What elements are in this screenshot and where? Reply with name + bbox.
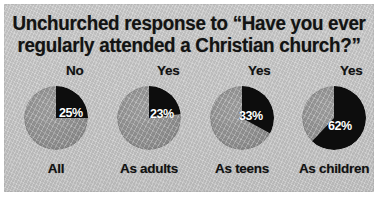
pie-chart-group-as-teens: Yes 33% As teens — [196, 64, 288, 188]
answer-label-as-children: Yes — [340, 64, 363, 78]
answer-label-as-adults: Yes — [157, 64, 180, 78]
chart-title-line-2: regularly attended a Christian church?” — [10, 34, 367, 56]
pie-value-label-all: 25% — [59, 107, 83, 120]
answer-label-as-teens: Yes — [248, 64, 271, 78]
category-label-as-children: As children — [288, 162, 380, 176]
chart-title: Unchurched response to “Have you ever re… — [4, 12, 374, 56]
pie-chart-group-all: No 25% All — [10, 64, 102, 188]
pie-as-children: 62% — [302, 86, 366, 150]
pie-all: 25% — [24, 86, 88, 150]
category-label-all: All — [10, 162, 102, 176]
answer-label-all: No — [66, 64, 84, 78]
pie-value-label-as-children: 62% — [328, 120, 352, 133]
pie-value-label-as-teens: 33% — [239, 110, 263, 123]
chart-title-line-1: Unchurched response to “Have you ever — [10, 12, 367, 34]
chart-panel: Unchurched response to “Have you ever re… — [4, 4, 374, 192]
category-label-as-adults: As adults — [103, 162, 195, 176]
pie-chart-group-as-children: Yes 62% As children — [288, 64, 380, 188]
pie-as-adults: 23% — [117, 86, 181, 150]
pie-as-teens: 33% — [210, 86, 274, 150]
pie-value-label-as-adults: 23% — [150, 108, 174, 121]
pie-chart-group-as-adults: Yes 23% As adults — [103, 64, 195, 188]
category-label-as-teens: As teens — [196, 162, 288, 176]
